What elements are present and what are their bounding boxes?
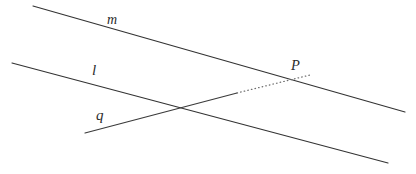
point-label-p: P	[291, 58, 300, 73]
geometry-diagram: m l q P	[0, 0, 416, 174]
geometry-canvas	[0, 0, 416, 174]
line-label-m: m	[107, 13, 117, 27]
line-label-l: l	[92, 63, 96, 78]
line-label-q: q	[96, 108, 104, 123]
line-q-solid-segment	[85, 93, 237, 133]
line-m	[33, 6, 405, 112]
line-q-dotted-extension	[237, 75, 310, 93]
line-l	[12, 63, 388, 163]
